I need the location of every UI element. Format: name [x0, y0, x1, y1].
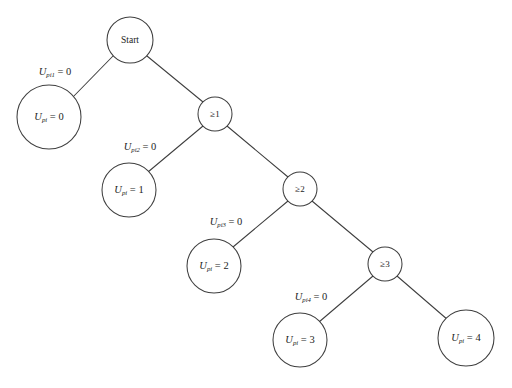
tree-canvas: Start ≥1 ≥2 ≥3 Upi = 0 Upi = 1 Upi = 2 — [0, 0, 512, 388]
node-terminal-2[interactable]: Upi = 2 — [187, 239, 241, 293]
edge-label-pi3: Upi3 = 0 — [210, 216, 243, 228]
edge-label-pi2: Upi2 = 0 — [124, 141, 157, 153]
edge-label-pi4: Upi4 = 0 — [295, 291, 328, 303]
edge-ge1-to-ge2 — [227, 126, 288, 177]
node-terminal-0[interactable]: Upi = 0 — [17, 85, 81, 149]
terminal-3-label: Upi = 3 — [285, 334, 314, 346]
node-ge2[interactable]: ≥2 — [283, 172, 317, 206]
edge-ge3-to-terminal-4 — [397, 276, 448, 320]
node-terminal-4[interactable]: Upi = 4 — [438, 310, 494, 366]
node-ge3[interactable]: ≥3 — [368, 247, 402, 281]
node-start[interactable]: Start — [107, 17, 153, 63]
edge-label-pi1: Upi1 = 0 — [39, 66, 72, 78]
ge1-node-label: ≥1 — [210, 109, 219, 119]
node-terminal-3[interactable]: Upi = 3 — [273, 313, 327, 367]
terminal-0-label: Upi = 0 — [34, 111, 63, 123]
ge3-node-label: ≥3 — [380, 259, 390, 269]
edge-start-to-ge1 — [147, 56, 203, 102]
terminal-2-label: Upi = 2 — [199, 260, 228, 272]
decision-tree-diagram: Start ≥1 ≥2 ≥3 Upi = 0 Upi = 1 Upi = 2 — [0, 0, 512, 388]
node-terminal-1[interactable]: Upi = 1 — [102, 163, 156, 217]
start-node-label: Start — [121, 35, 139, 45]
edge-ge2-to-ge3 — [312, 201, 373, 252]
terminal-1-label: Upi = 1 — [114, 184, 143, 196]
edge-start-to-terminal-0 — [72, 56, 113, 98]
node-ge1[interactable]: ≥1 — [198, 97, 232, 131]
terminal-4-label: Upi = 4 — [451, 332, 481, 344]
ge2-node-label: ≥2 — [295, 184, 304, 194]
